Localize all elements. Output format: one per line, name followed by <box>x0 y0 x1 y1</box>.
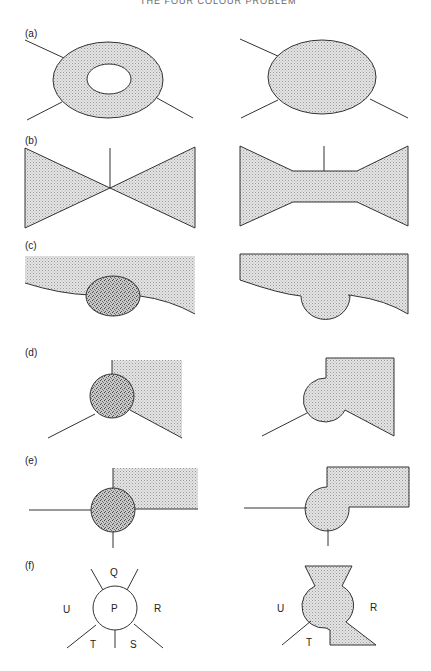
region-r-left: R <box>154 603 161 614</box>
panel-d-right <box>262 358 394 436</box>
region-t-right: T <box>306 637 312 648</box>
region-s: S <box>130 639 137 650</box>
panel-c-left <box>25 256 195 316</box>
region-t-left: T <box>90 639 96 650</box>
panel-a-left <box>25 40 193 120</box>
panel-e-right <box>244 467 409 546</box>
four-colour-diagram: Q P U R T S U R T <box>0 0 431 671</box>
region-u-left: U <box>63 604 70 615</box>
panel-c-right <box>240 254 408 319</box>
panel-b-left <box>25 147 195 228</box>
panel-d-left <box>48 360 182 438</box>
region-u-right: U <box>277 603 284 614</box>
region-p: P <box>111 603 118 614</box>
panel-e-left <box>29 468 198 548</box>
region-r-right: R <box>370 602 377 613</box>
panel-a-right <box>240 39 408 118</box>
region-q: Q <box>110 567 118 578</box>
panel-f-right <box>282 566 376 645</box>
panel-b-right <box>240 146 408 226</box>
